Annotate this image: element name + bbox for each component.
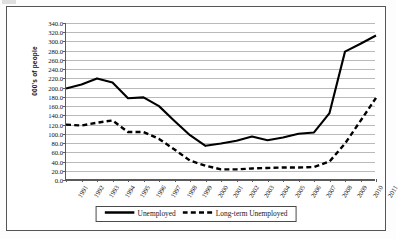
y-axis-tick-label: 220.0 <box>48 75 63 82</box>
y-axis-tick-label: 300.0 <box>48 38 63 45</box>
chart-legend: UnemployedLong-term Unemployed <box>96 206 297 222</box>
x-axis-tick-label: 2006 <box>309 184 322 199</box>
x-axis-tick-label: 1991 <box>76 184 89 199</box>
y-axis-tick-label: 20.0 <box>51 167 63 174</box>
x-axis-tick-label: 2002 <box>247 184 260 199</box>
dashed-line-key <box>183 209 213 218</box>
plot-canvas: 0.020.040.060.080.0100.0120.0140.0160.01… <box>65 23 375 180</box>
x-axis-tick-label: 2009 <box>355 184 368 199</box>
x-axis-tick-label: 1998 <box>185 184 198 199</box>
y-axis-tick-label: 340.0 <box>48 20 63 27</box>
x-axis-tick-mark <box>144 179 145 182</box>
x-axis-tick-label: 2000 <box>216 184 229 199</box>
x-axis-tick-mark <box>66 179 67 182</box>
x-axis-tick-mark <box>361 179 362 182</box>
y-axis-tick-label: 180.0 <box>48 93 63 100</box>
y-axis-tick-label: 60.0 <box>51 149 63 156</box>
x-axis-tick-label: 1995 <box>138 184 151 199</box>
chart-frame: 000's of people 0.020.040.060.080.0100.0… <box>6 6 386 231</box>
x-axis-tick-mark <box>128 179 129 182</box>
legend-label: Long-term Unemployed <box>216 210 288 217</box>
x-axis-tick-label: 1996 <box>154 184 167 199</box>
plot-area: 0.020.040.060.080.0100.0120.0140.0160.01… <box>65 23 375 180</box>
y-axis-tick-label: 80.0 <box>51 140 63 147</box>
y-axis-tick-label: 260.0 <box>48 56 63 63</box>
x-axis-tick-label: 2008 <box>340 184 353 199</box>
x-axis-tick-label: 1992 <box>92 184 105 199</box>
x-axis-tick-mark <box>190 179 191 182</box>
legend-label: Unemployed <box>138 210 176 217</box>
y-axis-tick-label: 160.0 <box>48 103 63 110</box>
solid-line-key <box>105 209 135 218</box>
x-axis-tick-mark <box>283 179 284 182</box>
x-axis-tick-mark <box>299 179 300 182</box>
data-series-layer <box>66 23 375 179</box>
legend-item[interactable]: Long-term Unemployed <box>183 209 288 218</box>
legend-item[interactable]: Unemployed <box>105 209 176 218</box>
y-axis-tick-label: 280.0 <box>48 47 63 54</box>
x-axis-tick-label: 2011 <box>386 184 399 199</box>
x-axis-tick-label: 1997 <box>169 184 182 199</box>
x-axis-tick-mark <box>221 179 222 182</box>
x-axis-tick-mark <box>206 179 207 182</box>
x-axis-tick-mark <box>376 179 377 182</box>
x-axis-tick-label: 1994 <box>123 184 136 199</box>
series-line-long-term-unemployed <box>66 98 376 170</box>
x-axis-tick-mark <box>330 179 331 182</box>
x-axis-tick-label: 2010 <box>371 184 384 199</box>
y-axis-tick-label: 0.0 <box>55 177 63 184</box>
x-axis-tick-mark <box>82 179 83 182</box>
series-line-unemployed <box>66 35 376 145</box>
x-axis-tick-mark <box>97 179 98 182</box>
x-axis-tick-label: 2001 <box>231 184 244 199</box>
x-axis-tick-mark <box>268 179 269 182</box>
y-axis-tick-label: 140.0 <box>48 112 63 119</box>
x-axis-tick-label: 2004 <box>278 184 291 199</box>
x-axis-tick-mark <box>252 179 253 182</box>
x-axis-tick-mark <box>175 179 176 182</box>
y-axis-tick-label: 200.0 <box>48 84 63 91</box>
x-axis-tick-mark <box>113 179 114 182</box>
scan-artifact <box>2 0 16 4</box>
y-axis-tick-label: 40.0 <box>51 158 63 165</box>
x-axis-tick-label: 2007 <box>324 184 337 199</box>
y-axis-title: 000's of people <box>31 23 47 119</box>
y-axis-tick-label: 240.0 <box>48 66 63 73</box>
y-axis-tick-label: 120.0 <box>48 121 63 128</box>
x-axis-tick-label: 1999 <box>200 184 213 199</box>
y-axis-tick-label: 100.0 <box>48 130 63 137</box>
x-axis-tick-mark <box>237 179 238 182</box>
y-axis-tick-label: 320.0 <box>48 29 63 36</box>
x-axis-tick-label: 2003 <box>262 184 275 199</box>
x-axis-tick-label: 1993 <box>107 184 120 199</box>
x-axis-tick-mark <box>345 179 346 182</box>
x-axis-tick-mark <box>314 179 315 182</box>
x-axis-tick-mark <box>159 179 160 182</box>
x-axis-tick-label: 2005 <box>293 184 306 199</box>
